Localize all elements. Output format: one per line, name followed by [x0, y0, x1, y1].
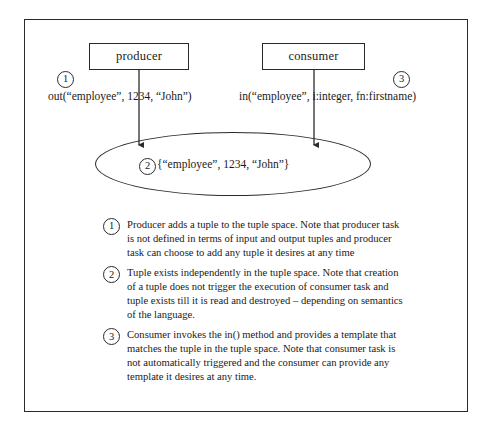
note-marker-3-label: 3: [109, 332, 114, 343]
consumer-task-label: consumer: [288, 49, 338, 64]
in-operation-label: in(“employee”, i:integer, fn:firstname): [239, 90, 416, 102]
note-text-3: Consumer invokes the in() method and pro…: [127, 328, 403, 383]
producer-task-box: producer: [89, 43, 189, 70]
note-marker-3: 3: [103, 328, 120, 345]
step-marker-2: 2: [139, 158, 156, 175]
note-text-1: Producer adds a tuple to the tuple space…: [127, 218, 403, 259]
note-marker-1-label: 1: [109, 221, 114, 232]
consumer-task-box: consumer: [262, 43, 365, 70]
note-marker-1: 1: [103, 218, 120, 235]
producer-task-label: producer: [116, 49, 162, 64]
step-marker-3-label: 3: [399, 74, 404, 85]
out-operation-label: out(“employee”, 1234, “John”): [48, 90, 192, 102]
step-marker-1-label: 1: [63, 74, 68, 85]
notes-list: 1 Producer adds a tuple to the tuple spa…: [103, 218, 403, 390]
note-item: 2 Tuple exists independently in the tupl…: [103, 266, 403, 321]
step-marker-1: 1: [57, 71, 74, 88]
tuple-value-label: {“employee”, 1234, “John”}: [157, 158, 289, 170]
note-item: 1 Producer adds a tuple to the tuple spa…: [103, 218, 403, 259]
step-marker-3: 3: [393, 71, 410, 88]
note-text-2: Tuple exists independently in the tuple …: [127, 266, 403, 321]
note-item: 3 Consumer invokes the in() method and p…: [103, 328, 403, 383]
step-marker-2-label: 2: [145, 161, 150, 172]
note-marker-2: 2: [103, 266, 120, 283]
note-marker-2-label: 2: [109, 270, 114, 281]
